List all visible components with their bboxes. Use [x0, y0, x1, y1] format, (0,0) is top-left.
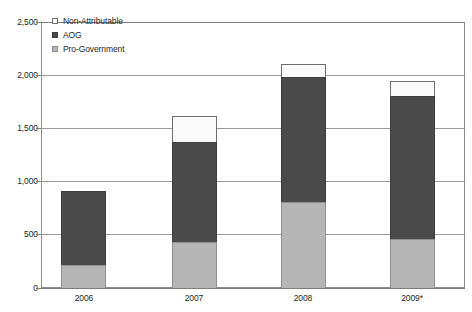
bar-segment-aog[interactable]	[281, 77, 326, 203]
y-tick-label-0: 0	[2, 283, 38, 293]
x-tick-label-2008: 2008	[268, 293, 338, 303]
legend-swatch-gray-icon	[52, 46, 58, 52]
legend-swatch-dark-icon	[52, 32, 58, 38]
bar-segment-pro-government[interactable]	[281, 202, 326, 288]
legend-label: Non-Attributable	[63, 16, 123, 26]
x-tick-label-2009: 2009*	[377, 293, 447, 303]
chart-legend: Non-Attributable AOG Pro-Government	[52, 15, 124, 54]
gridline-0	[41, 288, 465, 289]
y-tick-label-2000: 2,000	[2, 70, 38, 80]
legend-item-non-attributable[interactable]: Non-Attributable	[52, 15, 124, 26]
bar-group-2009[interactable]	[390, 81, 435, 288]
y-tick-label-1000: 1,000	[2, 176, 38, 186]
bar-segment-pro-government[interactable]	[390, 239, 435, 288]
bar-group-2007[interactable]	[172, 116, 217, 288]
legend-item-aog[interactable]: AOG	[52, 29, 124, 40]
bar-segment-aog[interactable]	[172, 142, 217, 244]
y-tick-label-500: 500	[2, 229, 38, 239]
bar-group-2006[interactable]	[61, 191, 106, 288]
bar-group-2008[interactable]	[281, 64, 326, 288]
legend-swatch-white-icon	[52, 18, 58, 24]
legend-label: Pro-Government	[63, 44, 124, 54]
bar-segment-pro-government[interactable]	[61, 265, 106, 288]
bars-layer	[41, 22, 465, 288]
y-tick-label-1500: 1,500	[2, 123, 38, 133]
bar-segment-non-attributable[interactable]	[172, 116, 217, 143]
y-tick-label-2500: 2,500	[2, 17, 38, 27]
chart-title-cropped	[0, 0, 472, 3]
y-axis: 2,500 2,000 1,500 1,000 500 0	[0, 0, 38, 312]
x-tick-label-2006: 2006	[49, 293, 119, 303]
bar-segment-pro-government[interactable]	[172, 242, 217, 288]
legend-label: AOG	[63, 30, 82, 40]
x-tick-label-2007: 2007	[159, 293, 229, 303]
bar-segment-non-attributable[interactable]	[390, 81, 435, 97]
bar-segment-aog[interactable]	[61, 191, 106, 266]
stacked-bar-chart: 2,500 2,000 1,500 1,000 500 0	[0, 0, 472, 312]
bar-segment-non-attributable[interactable]	[281, 64, 326, 78]
bar-segment-aog[interactable]	[390, 96, 435, 240]
legend-item-pro-government[interactable]: Pro-Government	[52, 43, 124, 54]
